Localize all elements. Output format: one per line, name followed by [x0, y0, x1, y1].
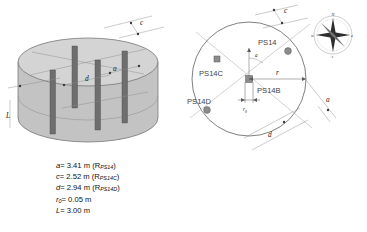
- dimension-L-3d: L: [5, 100, 10, 128]
- dimension-label-r0: r0: [243, 106, 247, 114]
- dimension-c-3d: c: [104, 16, 164, 38]
- dimension-label-a-plan: a: [326, 95, 330, 104]
- guide-dot-left: [19, 85, 21, 87]
- well-label-ps14b: PS14B: [257, 86, 281, 95]
- parameter-legend: a= 3.41 m (RPS14) c= 2.52 m (RPS14C) d= …: [56, 160, 120, 216]
- dimension-label-a-3d: a: [113, 64, 117, 73]
- legend-line: d= 2.94 m (RPS14D): [56, 182, 120, 193]
- dimension-label-d-3d: d: [85, 74, 89, 83]
- well-label-ps14c: PS14C: [199, 69, 224, 78]
- dimension-a-plan: a: [306, 80, 336, 122]
- well-label-ps14: PS14: [258, 38, 277, 47]
- dimension-r: r: [249, 68, 306, 81]
- dimension-label-c-3d: c: [140, 18, 144, 27]
- dimension-label-d-plan: d: [268, 130, 272, 139]
- dimension-label-angle: a: [255, 52, 258, 58]
- well-marker-ps14d: [204, 107, 211, 114]
- compass-label-north: N: [331, 12, 335, 17]
- well-marker-ps14: [285, 48, 292, 55]
- compass-rose: N e s w: [311, 12, 353, 59]
- legend-line: L= 3.00 m: [56, 205, 120, 216]
- well-label-ps14d: PS14D: [187, 97, 212, 106]
- well-marker-ps14c: [214, 56, 220, 62]
- construction-line-1: [196, 32, 312, 128]
- well-rod: [122, 51, 128, 123]
- well-rod: [72, 46, 78, 108]
- circular-plan-view: PS14B PS14 PS14C PS14D r a: [187, 5, 336, 150]
- compass-label-west: w: [311, 33, 314, 38]
- legend-line: r0= 0.05 m: [56, 194, 120, 205]
- 3d-cylinder-view: c a d L: [5, 16, 164, 142]
- legend-line: a= 3.41 m (RPS14): [56, 160, 120, 171]
- compass-label-south: s: [332, 54, 334, 59]
- dimension-c-plan: c: [255, 5, 308, 28]
- dimension-label-L-3d: L: [5, 111, 10, 120]
- well-rod: [95, 60, 101, 130]
- north-axis-arrow: [247, 48, 251, 52]
- dimension-label-r: r: [276, 68, 279, 77]
- compass-label-east: e: [351, 33, 353, 38]
- legend-line: c= 2.52 m (RPS14C): [56, 171, 120, 182]
